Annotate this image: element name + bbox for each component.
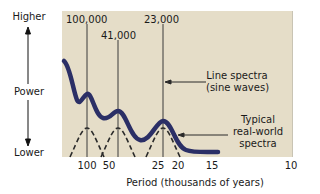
annotation-line-spectra: Line spectra (sine waves) (206, 70, 268, 94)
line-23k-label: 23,000 (144, 14, 179, 26)
line-spectra (87, 24, 163, 157)
annotation-real-world: Typical real-world spectra (228, 114, 288, 150)
x-tick-15: 15 (206, 160, 219, 172)
x-axis-title: Period (thousands of years) (105, 177, 285, 189)
annotation-line-spectra-line2: (sine waves) (206, 82, 268, 94)
x-tick-50: 50 (103, 160, 116, 172)
annotation-line-spectra-line1: Line spectra (206, 70, 268, 82)
annotation-real-world-line2: real-world (228, 126, 288, 138)
y-axis-arrow-icon (26, 27, 31, 146)
line-41k-label: 41,000 (101, 30, 136, 42)
annotation-real-world-line3: spectra (228, 138, 288, 150)
x-tick-100: 100 (77, 160, 96, 172)
x-tick-25: 25 (152, 160, 165, 172)
line-100k-label: 100,000 (66, 14, 107, 26)
annotation-real-world-line1: Typical (228, 114, 288, 126)
x-tick-10: 10 (285, 160, 298, 172)
x-tick-20: 20 (172, 160, 185, 172)
